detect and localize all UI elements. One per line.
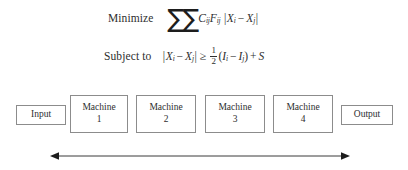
summation-symbol-outer: ∑ [168,9,184,29]
node-label-primary: Machine [286,102,319,114]
objective-function-row: Minimize ∑ ∑ C ij F ij | X i − X j | [108,8,258,28]
position-var-i: X [227,12,234,24]
fraction-denominator: 2 [210,57,217,66]
node-label-primary: Machine [149,102,182,114]
total-length-double-arrow [50,146,350,166]
summation-symbol-inner: ∑ [182,9,198,29]
node-label-index: 1 [97,114,102,126]
plus-operator: + [248,50,259,62]
machine-length-j-subscript: j [242,54,244,63]
node-label-primary: Output [354,109,380,121]
node-label-primary: Machine [218,102,251,114]
constraint-label: Subject to [104,50,151,62]
node-label-index: 3 [233,114,238,126]
constraint-position-var-i: X [166,50,173,62]
node-label-primary: Input [31,109,51,121]
diagram-canvas: Minimize ∑ ∑ C ij F ij | X i − X j | Sub… [0,0,408,170]
clearance-symbol: S [259,50,265,62]
node-box-machine1[interactable]: Machine1 [70,95,128,133]
arrowhead-right-icon [341,152,350,160]
position-var-j-subscript: j [253,16,255,25]
objective-label: Minimize [108,12,154,24]
node-box-input[interactable]: Input [16,105,66,125]
greater-equal-operator: ≥ [197,49,209,64]
constraint-row: Subject to | X i − X j | ≥ 1 2 ( I i − I… [104,46,264,67]
node-label-index: 2 [164,114,169,126]
node-box-machine3[interactable]: Machine3 [205,95,265,133]
constraint-minus-operator-1: − [175,50,186,62]
position-var-i-subscript: i [234,16,236,25]
node-box-machine4[interactable]: Machine4 [273,95,333,133]
machine-length-i-subscript: i [226,54,228,63]
node-label-primary: Machine [82,102,115,114]
flow-subscript: ij [217,16,221,25]
one-half-fraction: 1 2 [210,46,217,67]
abs-close-bar: | [255,12,258,24]
minus-operator: − [236,12,247,24]
constraint-minus-operator-2: − [228,50,239,62]
cost-coefficient-subscript: ij [206,16,210,25]
flow-symbol: F [210,12,217,24]
machine-layout-row: InputMachine1Machine2Machine3Machine4Out… [0,95,408,135]
constraint-position-var-i-subscript: i [173,54,175,63]
node-label-index: 4 [301,114,306,126]
node-box-output[interactable]: Output [341,105,393,125]
constraint-expression: | X i − X j | ≥ 1 2 ( I i − I j ) + S [162,46,264,67]
objective-expression: ∑ ∑ C ij F ij | X i − X j | [168,8,259,28]
node-box-machine2[interactable]: Machine2 [136,95,196,133]
fraction-numerator: 1 [210,46,217,55]
cost-coefficient-symbol: C [198,12,206,24]
arrowhead-left-icon [50,152,59,160]
constraint-position-var-j-subscript: j [192,54,194,63]
